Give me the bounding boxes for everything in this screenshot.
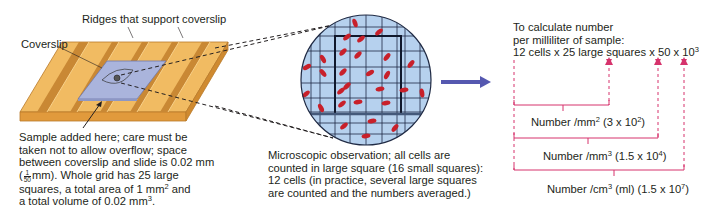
sample-caption-text: squares, a total area of 1 mm [19, 183, 165, 195]
result-per-cm3: Number /cm3 (ml) (1.5 x 107) [547, 183, 689, 196]
microscope-caption-line: counted in large square (16 small square… [268, 162, 483, 175]
result-per-mm3: Number /mm3 (1.5 x 104) [543, 150, 666, 163]
microscope-caption-line: 12 cells (in practice, several large squ… [268, 174, 483, 187]
result-label: Number /cm [547, 183, 608, 195]
sample-caption-line: squares, a total area of 1 mm2 and [19, 183, 214, 196]
sample-caption-line: between coverslip and slide is 0.02 mm [19, 156, 214, 169]
result-value: ) [641, 116, 645, 128]
formula-times: x [649, 46, 655, 58]
formula-times: x [673, 46, 679, 58]
microscope-caption-line: are counted and the numbers averaged.) [268, 187, 483, 200]
calculation-title-line: To calculate number [513, 21, 699, 34]
result-value: (3 x 10 [600, 116, 637, 128]
coverslip-label: Coverslip [21, 38, 68, 51]
paren: ( [19, 169, 23, 181]
result-value: (1.5 x 10 [612, 150, 659, 162]
sample-caption-text: and [169, 183, 191, 195]
result-label: Number /mm [531, 116, 596, 128]
ridges-label: Ridges that support coverslip [82, 13, 226, 26]
sample-caption-text: a total volume of 0.02 mm [19, 195, 148, 207]
sample-caption-line: a total volume of 0.02 mm3. [19, 195, 214, 208]
microscope-caption: Microscopic observation; all cells are c… [268, 149, 483, 199]
calculation-formula: 12 cells x 25 large squares x 50 x 103 [513, 46, 699, 59]
result-label: Number /mm [543, 150, 608, 162]
microscope-caption-line: Microscopic observation; all cells are [268, 149, 483, 162]
formula-squares: 25 large squares [563, 46, 646, 58]
formula-conversion: 10 [682, 46, 694, 58]
result-value: ) [685, 183, 689, 195]
sample-caption-text: mm). Whole grid has 25 large [32, 169, 179, 181]
sample-caption-line: Sample added here; care must be [19, 131, 214, 144]
result-value: ) [663, 150, 667, 162]
sample-caption-line: taken not to allow overflow; space [19, 144, 214, 157]
right-arrow-icon [441, 76, 491, 88]
sample-caption-line: (150mm). Whole grid has 25 large [19, 169, 214, 183]
formula-depth: 50 [658, 46, 670, 58]
calculation-title-line: per milliliter of sample: [513, 34, 699, 47]
fraction: 150 [24, 170, 31, 183]
result-per-mm2: Number /mm2 (3 x 102) [531, 116, 645, 129]
sample-caption-text: . [152, 195, 155, 207]
calculation-title: To calculate number per milliliter of sa… [513, 21, 699, 59]
result-value: (ml) (1.5 x 10 [612, 183, 681, 195]
sample-caption: Sample added here; care must be taken no… [19, 131, 214, 208]
superscript: 3 [695, 45, 699, 54]
formula-cells: 12 cells [513, 46, 551, 58]
formula-times: x [554, 46, 560, 58]
